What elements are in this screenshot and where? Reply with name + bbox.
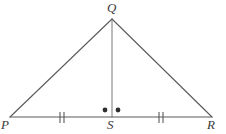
geometry-diagram: Q P S R — [0, 0, 226, 134]
segment-qr — [112, 19, 212, 117]
segment-pq — [10, 19, 112, 117]
vertex-label-p: P — [1, 118, 9, 131]
vertex-label-s: S — [107, 118, 114, 131]
geometry-canvas — [0, 0, 226, 134]
vertex-label-r: R — [207, 118, 215, 131]
angle-dot-right-icon — [116, 108, 121, 113]
angle-dot-left-icon — [103, 108, 108, 113]
vertex-label-q: Q — [107, 1, 116, 14]
